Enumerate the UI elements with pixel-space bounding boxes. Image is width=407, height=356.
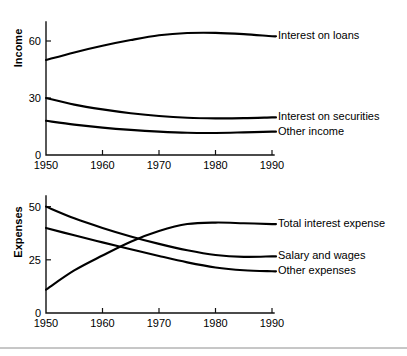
x-tick-label: 1990: [260, 159, 284, 171]
series-line: [46, 228, 276, 271]
series-line: [46, 98, 276, 118]
expenses-chart: 0255019501960197019801990ExpensesTotal i…: [12, 196, 385, 329]
x-tick-label: 1970: [147, 159, 171, 171]
series-label: Interest on loans: [278, 29, 360, 41]
series-label: Total interest expense: [278, 217, 385, 229]
series-line: [46, 121, 276, 133]
charts-svg: 0306019501960197019801990IncomeInterest …: [0, 0, 407, 356]
series-label: Interest on securities: [278, 110, 380, 122]
axes: [46, 196, 274, 313]
x-tick-label: 1960: [90, 159, 114, 171]
x-tick-label: 1970: [147, 317, 171, 329]
x-tick-label: 1950: [34, 317, 58, 329]
series-label: Salary and wages: [278, 249, 366, 261]
y-tick-label: 50: [29, 201, 41, 213]
series-label: Other income: [278, 125, 344, 137]
series-line: [46, 33, 276, 60]
x-tick-label: 1950: [34, 159, 58, 171]
y-tick-label: 60: [29, 35, 41, 47]
axes: [46, 22, 274, 155]
series-label: Other expenses: [278, 264, 356, 276]
axis-frame: [46, 22, 274, 155]
y-axis-title: Expenses: [12, 206, 24, 257]
axis-frame: [46, 196, 274, 313]
figure-container: 0306019501960197019801990IncomeInterest …: [0, 0, 407, 356]
y-tick-label: 25: [29, 254, 41, 266]
x-tick-label: 1960: [90, 317, 114, 329]
x-tick-label: 1990: [260, 317, 284, 329]
y-tick-label: 30: [29, 92, 41, 104]
series-line: [46, 207, 276, 257]
x-tick-label: 1980: [203, 317, 227, 329]
x-tick-label: 1980: [203, 159, 227, 171]
y-axis-title: Income: [12, 29, 24, 68]
income-chart: 0306019501960197019801990IncomeInterest …: [12, 22, 380, 171]
